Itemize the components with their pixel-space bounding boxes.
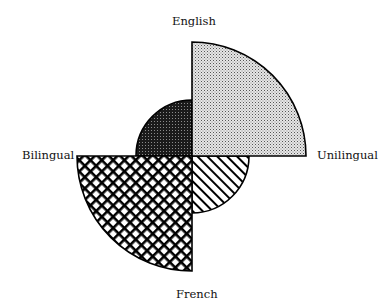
segments-group (77, 42, 306, 271)
segment-english-bilingual (136, 100, 192, 156)
segment-english-unilingual (192, 42, 306, 156)
axis-label-english: English (172, 16, 216, 28)
axis-label-unilingual: Unilingual (317, 150, 378, 162)
axis-label-french: French (176, 289, 218, 301)
axis-label-bilingual: Bilingual (22, 150, 74, 162)
segment-french-bilingual (77, 156, 192, 271)
segment-french-unilingual (192, 156, 249, 213)
